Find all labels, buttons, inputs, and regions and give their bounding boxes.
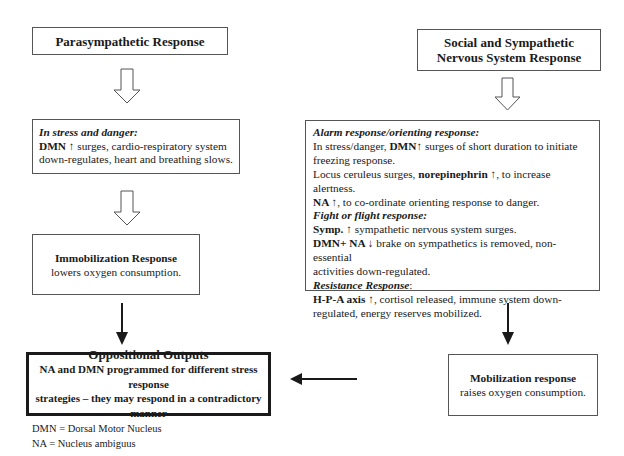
- alarm-response-box: Alarm response/orienting response: In st…: [305, 120, 600, 291]
- stress-line2: down-regulates, heart and breathing slow…: [39, 153, 233, 167]
- mobilization-text: raises oxygen consumption.: [460, 385, 586, 399]
- up-arrow-icon: ↑: [343, 223, 351, 235]
- footnote-na: NA = Nucleus ambiguus: [32, 436, 162, 451]
- social-title-line2: Nervous System Response: [437, 50, 581, 65]
- mobilization-title: Mobilization response: [470, 371, 576, 385]
- fight-flight-heading: Fight or flight response:: [313, 209, 592, 223]
- stress-line1: DMN ↑ surges, cardio-respiratory system: [39, 140, 233, 154]
- footnotes: DMN = Dorsal Motor Nucleus NA = Nucleus …: [32, 421, 162, 451]
- outputs-title: Oppositional Outputs: [88, 348, 208, 363]
- parasympathetic-response-box: Parasympathetic Response: [32, 27, 228, 55]
- stress-heading: In stress and danger:: [39, 126, 233, 140]
- social-title-line1: Social and Sympathetic: [444, 35, 574, 50]
- up-arrow-icon: ↑: [365, 293, 373, 305]
- solid-down-arrow-icon: [502, 332, 514, 345]
- immobilization-response-box: Immobilization Response lowers oxygen co…: [32, 234, 200, 295]
- hollow-down-arrow-icon: [114, 69, 140, 103]
- immobilization-text: lowers oxygen consumption.: [51, 265, 181, 279]
- outputs-line1: NA and DMN programmed for different stre…: [29, 362, 268, 391]
- up-arrow-icon: ↑: [488, 168, 496, 180]
- oppositional-outputs-box: Oppositional Outputs NA and DMN programm…: [26, 352, 271, 416]
- up-arrow-icon: ↑: [329, 196, 337, 208]
- footnote-dmn: DMN = Dorsal Motor Nucleus: [32, 421, 162, 436]
- mobilization-response-box: Mobilization response raises oxygen cons…: [448, 354, 598, 416]
- hollow-down-arrow-icon: [114, 191, 140, 225]
- hollow-down-arrow-icon: [495, 78, 520, 110]
- immobilization-title: Immobilization Response: [55, 251, 177, 265]
- solid-down-arrow-icon: [116, 332, 128, 345]
- solid-left-arrow-icon: [290, 373, 302, 385]
- alarm-heading: Alarm response/orienting response:: [313, 126, 592, 140]
- resistance-heading: Resistance Response: [313, 279, 409, 291]
- social-sympathetic-box: Social and Sympathetic Nervous System Re…: [417, 29, 601, 71]
- parasympathetic-title: Parasympathetic Response: [55, 34, 204, 49]
- outputs-line2: strategies – they may respond in a contr…: [29, 391, 268, 420]
- stress-danger-box: In stress and danger: DMN ↑ surges, card…: [32, 119, 240, 174]
